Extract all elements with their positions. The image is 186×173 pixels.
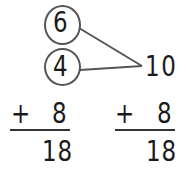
right-plus-sign: + (115, 100, 134, 128)
addend-bottom: 4 (53, 53, 68, 81)
addend-top: 6 (53, 9, 68, 37)
right-addend: 8 (157, 100, 172, 128)
connector-line-bottom (80, 66, 142, 70)
left-addend: 8 (52, 100, 67, 128)
left-result: 18 (42, 138, 73, 166)
left-sum-rule (10, 129, 70, 131)
right-sum-rule (115, 129, 175, 131)
sum-ten: 10 (145, 53, 178, 81)
left-plus-sign: + (11, 100, 30, 128)
connector-line-top (79, 28, 142, 66)
right-result: 18 (146, 138, 177, 166)
